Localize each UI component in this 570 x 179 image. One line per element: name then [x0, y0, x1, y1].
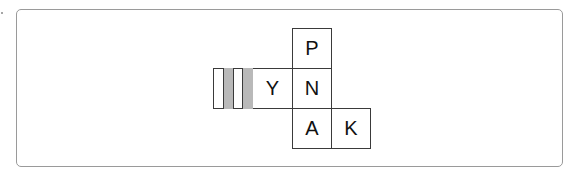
stripe-1 — [223, 68, 234, 109]
face-label: A — [305, 117, 318, 140]
face-label: P — [305, 37, 318, 60]
face-label: K — [344, 117, 357, 140]
face-label: N — [305, 77, 319, 100]
face-a: A — [292, 108, 332, 149]
face-n: N — [292, 68, 332, 109]
face-k: K — [331, 108, 371, 149]
face-striped — [213, 68, 254, 109]
face-p: P — [292, 28, 332, 69]
marker-dot — [1, 12, 3, 14]
face-label: Y — [266, 77, 279, 100]
face-y: Y — [253, 68, 293, 109]
